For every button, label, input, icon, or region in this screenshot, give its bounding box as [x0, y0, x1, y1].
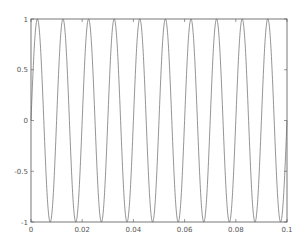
- x-tick-label: 0.04: [126, 226, 142, 234]
- sine-wave-chart: 00.020.040.060.080.1 -1-0.500.51: [0, 0, 299, 246]
- x-tick-label: 0.08: [228, 226, 244, 234]
- y-tick-label: -1: [21, 219, 28, 227]
- y-tick-label: -0.5: [14, 168, 28, 176]
- y-tick-label: 0: [24, 117, 28, 125]
- y-tick-label: 0.5: [17, 66, 28, 74]
- y-tick-label: 1: [24, 16, 28, 24]
- x-tick-label: 0.06: [177, 226, 193, 234]
- x-tick-label: 0.1: [281, 226, 292, 234]
- x-tick-label: 0.02: [74, 226, 90, 234]
- x-tick-label: 0: [29, 226, 33, 234]
